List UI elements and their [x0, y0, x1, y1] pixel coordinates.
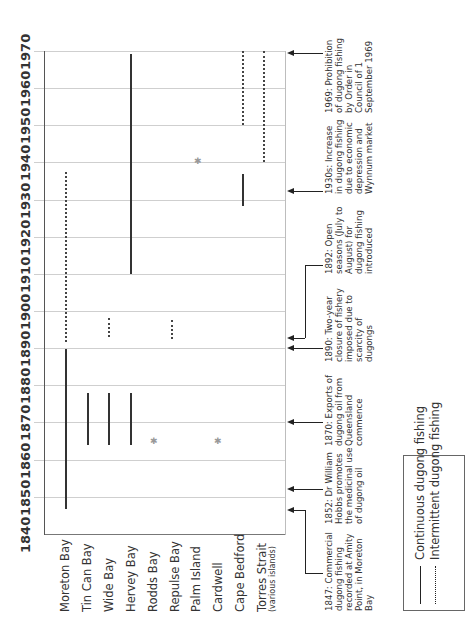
tick-1920: 1920: [19, 220, 32, 256]
palm-island-asterisk-icon: ✱: [194, 157, 202, 166]
repulse-bay-intermittent: [171, 320, 173, 339]
arrow-1890-line: [293, 348, 323, 349]
annotation-1892: 1892: Open seasons (July to August) for …: [324, 206, 374, 274]
gridline-1890: [34, 348, 285, 349]
location-cape-bedford: Cape Bedford: [234, 534, 246, 612]
legend: Continuous dugong fishing Intermittent d…: [403, 455, 465, 611]
gridline-1960: [34, 88, 285, 89]
annotation-1969: 1969: Prohibition of dugong fishing by O…: [324, 38, 374, 113]
arrow-1870-line: [293, 422, 323, 423]
location-repulse-bay: Repulse Bay: [169, 541, 181, 612]
annotation-1847: 1847: Commercial dugong fishing recorded…: [324, 532, 374, 611]
gridline-1930: [34, 200, 285, 201]
tick-1890: 1890: [19, 331, 32, 367]
gridline-1910: [34, 274, 285, 275]
location-hervey-bay: Hervey Bay: [125, 545, 137, 612]
tick-1840: 1840: [19, 517, 32, 553]
location-moreton-bay: Moreton Bay: [59, 539, 71, 612]
wide-bay-intermittent: [108, 318, 110, 337]
gridline-1920: [34, 237, 285, 238]
torres-strait-intermittent: [263, 51, 265, 162]
arrow-1892-line: [293, 338, 305, 339]
rodds-bay-asterisk-icon: ✱: [150, 437, 158, 446]
arrow-1847-riser: [305, 510, 306, 573]
arrow-1847-foot: [305, 573, 323, 574]
cape-bedford-intermittent: [242, 51, 244, 125]
arrow-1847-line: [293, 510, 305, 511]
moreton-bay-continuous: [65, 349, 67, 509]
arrow-1969-line: [293, 53, 323, 54]
gridline-1860: [34, 460, 285, 461]
wide-bay-continuous: [108, 393, 110, 445]
annotation-1852: 1852: Dr William Hobbs promotes the medi…: [324, 448, 364, 525]
tick-1880: 1880: [19, 368, 32, 404]
hervey-bay-continuous-1910-1969: [130, 54, 132, 274]
hervey-bay-continuous-1860s: [130, 393, 132, 445]
location-torres-strait-sub: (various islands): [268, 543, 277, 612]
tick-1850: 1850: [19, 480, 32, 516]
gridline-1950: [34, 125, 285, 126]
annotation-1870: 1870: Exports of dugong oil from Queensl…: [324, 375, 364, 446]
legend-continuous-swatch: [420, 566, 421, 604]
chart-right-edge: [285, 51, 286, 535]
gridline-1840: [44, 534, 285, 535]
location-palm-island: Palm Island: [190, 546, 202, 612]
year-axis-line: [44, 51, 45, 535]
tick-1950: 1950: [19, 108, 32, 144]
gridline-1850: [34, 497, 285, 498]
location-rodds-bay: Rodds Bay: [147, 552, 159, 613]
tin-can-bay-continuous: [87, 393, 89, 445]
tick-1940: 1940: [19, 145, 32, 181]
cape-bedford-continuous: [242, 174, 244, 206]
moreton-bay-intermittent: [65, 172, 67, 342]
legend-intermittent-label: Intermittent dugong fishing: [429, 402, 441, 560]
arrow-1930s-line: [293, 191, 323, 192]
tick-1900: 1900: [19, 294, 32, 330]
legend-continuous-label: Continuous dugong fishing: [414, 406, 426, 560]
location-tin-can-bay: Tin Can Bay: [81, 543, 93, 612]
tick-1970: 1970: [19, 34, 32, 70]
tick-1910: 1910: [19, 257, 32, 293]
gridline-1970: [34, 51, 285, 52]
location-cardwell: Cardwell: [212, 562, 224, 612]
tick-1960: 1960: [19, 71, 32, 107]
tick-1870: 1870: [19, 405, 32, 441]
cardwell-asterisk-icon: ✱: [214, 437, 222, 446]
arrow-1852-line: [293, 489, 323, 490]
annotation-1890: 1890: Two-year closure of fishery impose…: [324, 288, 374, 362]
arrow-1892-riser: [305, 265, 306, 338]
arrow-1892-foot: [305, 265, 323, 266]
gridline-1940: [34, 162, 285, 163]
location-torres-strait: Torres Strait(various islands): [256, 543, 277, 612]
tick-1930: 1930: [19, 183, 32, 219]
gridline-1870: [34, 422, 285, 423]
legend-intermittent-swatch: [435, 566, 436, 604]
gridline-1880: [34, 385, 285, 386]
location-wide-bay: Wide Bay: [103, 558, 115, 612]
tick-1860: 1860: [19, 443, 32, 479]
gridline-1900: [34, 311, 285, 312]
annotation-1930s: 1930s: Increase in dugong fishing due to…: [324, 120, 374, 194]
